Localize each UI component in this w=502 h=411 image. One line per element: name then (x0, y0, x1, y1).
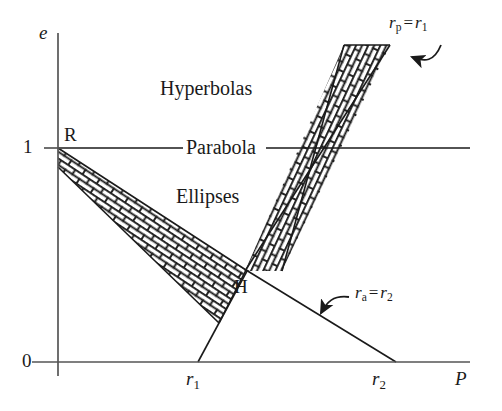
rp-annotation-arrow (412, 45, 441, 60)
x-tick-label-r1: r1 (186, 369, 200, 392)
annotation-ra-eq-r2: ra=r2 (355, 284, 393, 304)
x-tick-label-r1-sub: 1 (193, 377, 199, 392)
figure-canvas (0, 0, 502, 411)
anno0-sub: p (396, 21, 402, 34)
point-label-R: R (64, 125, 77, 144)
region-label-ellipses: Ellipses (176, 186, 239, 206)
anno1-base2: r (380, 283, 387, 302)
y-tick-label-0: 0 (22, 351, 32, 370)
anno1-base: r (355, 283, 362, 302)
region-label-parabola: Parabola (183, 137, 259, 157)
orbit-classification-figure: e P 1 0 r1 r2 Hyperbolas Parabola Ellips… (0, 0, 502, 411)
anno0-base: r (389, 13, 396, 32)
x-tick-label-r2-sub: 2 (379, 377, 385, 392)
point-label-H: H (234, 277, 248, 296)
hatched-band-left (58, 148, 246, 323)
anno1-eq: = (369, 283, 379, 302)
y-tick-label-1: 1 (23, 137, 33, 156)
x-tick-label-r2: r2 (372, 369, 386, 392)
anno0-eq: = (403, 13, 413, 32)
hatched-band-right (245, 45, 390, 271)
anno0-sub2: 1 (422, 21, 428, 34)
ra-annotation-arrow (321, 297, 349, 313)
y-axis-label: e (39, 23, 47, 42)
region-label-hyperbolas: Hyperbolas (160, 78, 252, 98)
anno1-sub: a (362, 291, 367, 304)
x-axis-label: P (455, 369, 467, 388)
anno0-base2: r (415, 13, 422, 32)
anno1-sub2: 2 (387, 291, 393, 304)
annotation-rp-eq-r1: rp=r1 (389, 14, 427, 34)
